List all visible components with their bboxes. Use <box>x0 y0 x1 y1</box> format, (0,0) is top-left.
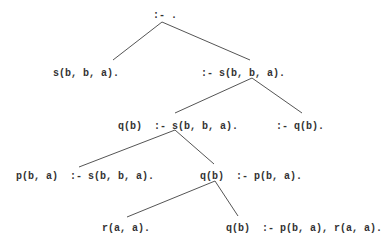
edge-goal-s-to-rule-q <box>175 78 252 113</box>
edge-rule-q-to-rule-q-p <box>175 130 214 164</box>
node-goal-s: :- s(b, b, a). <box>201 68 285 80</box>
node-fact-r: r(a, a). <box>102 223 150 235</box>
resolution-tree-diagram: :- . s(b, b, a). :- s(b, b, a). q(b) :- … <box>0 0 390 244</box>
node-rule-q-from-p-r: q(b) :- p(b, a), r(a, a). <box>226 223 382 235</box>
edge-goal-s-to-goal-q <box>252 78 302 113</box>
edge-rule-q-p-to-rule-q-pr <box>215 181 238 216</box>
node-root-empty-goal: :- . <box>153 10 177 22</box>
node-rule-q-from-s: q(b) :- s(b, b, a). <box>118 121 238 133</box>
edge-root-to-goal-s <box>162 22 250 60</box>
node-rule-p-from-s: p(b, a) :- s(b, b, a). <box>16 171 154 183</box>
node-fact-s: s(b, b, a). <box>53 68 119 80</box>
edge-rule-q-p-to-fact-r <box>127 181 215 217</box>
edge-rule-q-to-rule-p <box>79 130 175 167</box>
node-rule-q-from-p: q(b) :- p(b, a). <box>200 171 302 183</box>
edge-root-to-fact-s <box>113 22 162 60</box>
node-goal-q: :- q(b). <box>276 121 324 133</box>
